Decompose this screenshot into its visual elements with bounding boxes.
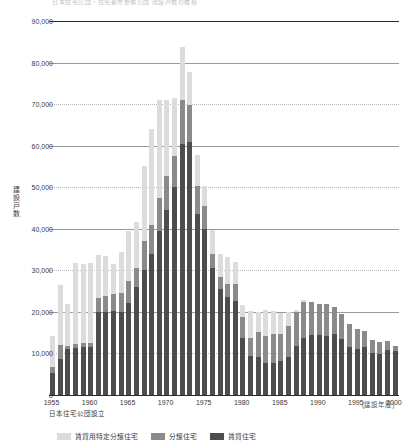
bar-1960 (88, 263, 93, 395)
bar-segment (187, 105, 192, 142)
bar-segment (88, 347, 93, 395)
bar-segment (142, 270, 147, 395)
bar-1985 (278, 313, 283, 395)
bar-segment (187, 142, 192, 395)
bar-segment (370, 340, 375, 353)
bar-segment (73, 348, 78, 395)
bar-segment (103, 296, 108, 312)
bar-1955 (50, 336, 55, 395)
bar-segment (324, 304, 329, 335)
bar-segment (385, 341, 390, 350)
bar-1963 (111, 264, 116, 395)
bar-segment (142, 241, 147, 269)
bar-segment (301, 338, 306, 395)
bar-1965 (126, 231, 131, 395)
bar-segment (111, 264, 116, 294)
bar-1971 (172, 98, 177, 395)
bar-segment (240, 305, 245, 317)
bar-segment (96, 255, 101, 299)
y-axis-title: 建設戸数 (13, 186, 20, 218)
bar-1966 (134, 222, 139, 395)
bar-segment (233, 301, 238, 395)
bar-series-group (49, 21, 399, 395)
bar-segment (88, 263, 93, 342)
bar-1988 (301, 300, 306, 395)
bar-segment (286, 312, 291, 327)
bar-segment (225, 297, 230, 395)
bar-segment (347, 324, 352, 347)
bar-segment (103, 312, 108, 395)
legend-swatch-icon (151, 433, 165, 440)
y-tick-text: 90,000 (11, 18, 57, 25)
bar-segment (180, 47, 185, 100)
chart-container: 日本住宅公団・住宅都市整備公団 建設戸数の推移 建設戸数 010,00020,0… (0, 0, 410, 448)
bar-1995 (355, 329, 360, 395)
x-tick-label: 1980 (234, 399, 250, 406)
bar-segment (65, 349, 70, 395)
legend-item-tokutei_bunjo[interactable]: 賃貸用特定分譲住宅 (57, 431, 138, 441)
bar-1999 (385, 341, 390, 395)
bar-1973 (187, 72, 192, 395)
bar-segment (339, 314, 344, 339)
x-axis-line (49, 395, 399, 396)
bar-segment (256, 357, 261, 395)
bar-1957 (65, 304, 70, 395)
bar-segment (309, 302, 314, 335)
bar-segment (202, 186, 207, 206)
legend-swatch-icon (57, 433, 71, 440)
chart-note: 日本住宅公団設立 (49, 408, 105, 418)
bar-1981 (248, 311, 253, 395)
bar-segment (73, 263, 78, 344)
bar-segment (65, 304, 70, 346)
bar-segment (377, 354, 382, 395)
y-tick-text: 60,000 (11, 142, 57, 149)
bar-1996 (362, 331, 367, 395)
bar-1997 (370, 340, 375, 395)
x-tick-label: 1990 (310, 399, 326, 406)
y-tick-label: 10,000 (11, 350, 57, 357)
bar-segment (271, 334, 276, 363)
x-tick-label: 1965 (120, 399, 136, 406)
bar-segment (149, 129, 154, 224)
bar-segment (225, 284, 230, 297)
bar-segment (202, 206, 207, 228)
bar-segment (119, 293, 124, 312)
bar-segment (248, 356, 253, 395)
legend-item-chintai[interactable]: 賃貸住宅 (210, 431, 256, 441)
bar-segment (180, 144, 185, 395)
bar-1992 (332, 307, 337, 395)
bar-segment (271, 363, 276, 395)
bar-segment (172, 187, 177, 395)
bar-segment (164, 210, 169, 395)
bar-1976 (210, 230, 215, 395)
bar-segment (240, 338, 245, 395)
bar-1977 (218, 254, 223, 395)
bar-1959 (81, 264, 86, 395)
bar-segment (126, 231, 131, 281)
bar-segment (286, 326, 291, 357)
bar-1979 (233, 262, 238, 395)
bar-segment (126, 303, 131, 395)
legend-item-bunjo[interactable]: 分譲住宅 (151, 431, 197, 441)
bar-1986 (286, 312, 291, 396)
y-tick-text: 30,000 (11, 267, 57, 274)
bar-segment (81, 347, 86, 395)
bar-segment (96, 312, 101, 395)
y-tick-label: 40,000 (11, 225, 57, 232)
bar-segment (210, 230, 215, 254)
chart-legend: 賃貸用特定分譲住宅分譲住宅賃貸住宅 (57, 431, 256, 441)
bar-segment (324, 336, 329, 395)
bar-segment (317, 304, 322, 336)
bar-1984 (271, 311, 276, 395)
bar-1980 (240, 305, 245, 395)
bar-segment (149, 254, 154, 395)
x-tick-label: 1955 (44, 399, 60, 406)
bar-segment (195, 186, 200, 213)
bar-segment (309, 335, 314, 395)
y-tick-label: 60,000 (11, 142, 57, 149)
bar-segment (58, 345, 63, 359)
y-tick-text: 10,000 (11, 350, 57, 357)
bar-1994 (347, 324, 352, 395)
legend-label: 賃貸住宅 (228, 431, 256, 441)
bar-segment (377, 342, 382, 354)
